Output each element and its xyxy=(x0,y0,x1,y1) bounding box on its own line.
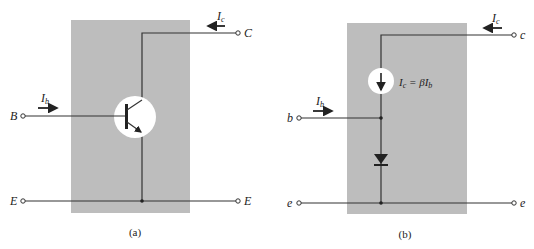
base-current-indicator-b: Ib xyxy=(313,94,332,111)
base-junction-dot xyxy=(379,116,383,120)
terminal-b-b xyxy=(297,116,301,120)
collector-current-indicator-b: Ic xyxy=(484,11,502,28)
label-emitter-left: E xyxy=(9,194,18,208)
caption-a: (a) xyxy=(129,226,142,239)
collector-current-indicator: Ic xyxy=(208,9,225,26)
terminal-e-right-b xyxy=(512,201,516,205)
panel-a-transistor-circuit: C B E E Ic Ib (a) xyxy=(9,9,253,239)
label-collector-b: c xyxy=(520,28,526,42)
svg-text:Ib: Ib xyxy=(315,94,324,109)
label-collector: C xyxy=(244,26,253,40)
bjt-equivalent-circuits-figure: C B E E Ic Ib (a) Ic = βIb xyxy=(0,0,534,249)
emitter-junction-dot xyxy=(140,199,144,203)
terminal-e-right xyxy=(236,199,240,203)
svg-text:Ic: Ic xyxy=(216,9,225,24)
caption-b: (b) xyxy=(399,228,412,241)
label-base-b: b xyxy=(287,111,293,125)
label-emitter-left-b: e xyxy=(287,196,293,210)
panel-b-equivalent-circuit: Ic = βIb c b e e Ic Ib (b) xyxy=(287,11,526,241)
terminal-e-left-b xyxy=(297,201,301,205)
terminal-b xyxy=(21,114,25,118)
terminal-c xyxy=(236,31,240,35)
svg-text:Ic: Ic xyxy=(491,11,500,26)
label-emitter-right: E xyxy=(243,194,252,208)
dependent-current-source-icon xyxy=(368,68,394,94)
label-emitter-right-b: e xyxy=(520,196,526,210)
terminal-e-left xyxy=(21,199,25,203)
emitter-junction-dot-b xyxy=(379,201,383,205)
base-current-indicator: Ib xyxy=(38,91,57,108)
terminal-c-b xyxy=(512,33,516,37)
label-base: B xyxy=(10,109,18,123)
svg-text:Ib: Ib xyxy=(40,91,49,106)
